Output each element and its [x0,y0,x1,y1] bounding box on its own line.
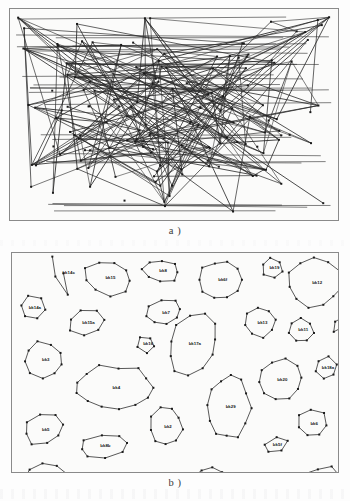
cluster: bk14c [51,256,75,296]
graph-node [236,141,238,143]
graph-node [274,277,276,279]
graph-node [27,104,29,106]
graph-node [152,148,154,150]
cluster-label: bk6 [310,421,318,426]
graph-node [171,185,173,187]
graph-node [142,140,144,142]
graph-node [159,165,161,167]
scan-artifact-bottom [0,489,350,499]
graph-node [84,149,86,151]
graph-node [137,367,139,369]
graph-node [118,105,120,107]
cluster-label: bk12 [312,280,323,285]
cluster: bk13 [244,307,276,339]
graph-node [56,465,58,467]
graph-node [81,448,83,450]
graph-node [170,355,172,357]
graph-node [244,422,246,424]
graph-node [141,268,143,270]
graph-node [280,450,282,452]
graph-node [150,152,152,154]
graph-node [249,116,251,118]
graph-node [94,90,96,92]
cluster-label: bk11 [298,327,308,332]
graph-node [231,107,233,109]
graph-node [55,414,57,416]
graph-node [269,257,271,259]
graph-node [245,392,247,394]
graph-node [101,406,103,408]
graph-node [298,414,300,416]
cluster-label: bk15 [105,275,116,280]
graph-node [332,295,334,297]
cluster-label: bk14a [29,305,42,310]
graph-node [322,202,324,204]
graph-node [206,404,208,406]
graph-node [175,439,177,441]
graph-node [160,406,162,408]
graph-node [173,280,175,282]
graph-node [80,160,82,162]
graph-node [241,42,243,44]
graph-node [67,294,69,296]
graph-node [268,310,270,312]
graph-node [62,424,64,426]
graph-node [46,442,48,444]
cluster: bk7 [145,299,180,325]
graph-node [154,321,156,323]
graph-node [262,337,264,339]
graph-node [29,469,31,471]
graph-node [199,107,201,109]
graph-node [28,350,30,352]
graph-node [129,280,131,282]
graph-node [247,53,249,55]
cluster: bk18a [315,355,338,379]
graph-node [125,269,127,271]
graph-node [155,181,157,183]
graph-node [163,138,165,140]
cluster-label: bk17a [189,341,202,346]
graph-node [226,137,228,139]
graph-node [159,185,161,187]
graph-node [29,372,31,374]
graph-node [89,81,91,83]
graph-node [245,143,247,145]
cluster-label: bk29 [226,404,237,409]
cluster: bk20 [258,358,302,401]
graph-node [57,434,59,436]
graph-node [25,433,27,435]
graph-node [171,88,173,90]
graph-node [181,144,183,146]
graph-node [145,123,147,125]
graph-node [22,48,24,50]
graph-node [161,260,163,262]
graph-node [275,398,277,400]
graph-node [56,43,58,45]
graph-node [296,30,298,32]
cluster-outline [303,466,338,472]
graph-node [137,346,139,348]
graph-node [78,138,80,140]
graph-node [160,66,162,68]
graph-node [84,267,86,269]
graph-node [287,440,289,442]
graph-node [126,442,128,444]
graph-node [83,439,85,441]
graph-node [252,175,254,177]
graph-node [124,200,126,202]
graph-node [313,257,315,259]
cluster: bk12 [288,257,338,309]
cluster-label: bk5 [42,427,50,432]
graph-node [317,19,319,21]
graph-node [135,66,137,68]
graph-edge [56,46,289,47]
graph-node [201,469,203,471]
graph-node [264,131,266,133]
cluster: bk8 [141,260,178,282]
graph-node [163,201,165,203]
graph-node [149,261,151,263]
graph-node [73,134,75,136]
graph-node [24,360,26,362]
graph-node [118,408,120,410]
graph-node [158,60,160,62]
